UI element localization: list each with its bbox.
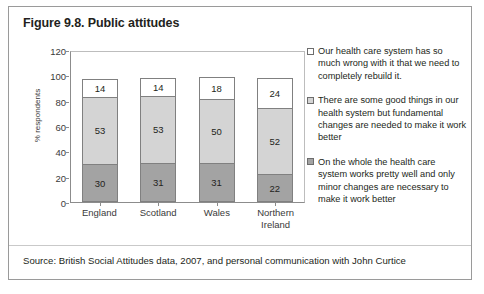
- legend-item[interactable]: Our health care system has so much wrong…: [307, 45, 467, 82]
- x-axis-label-wales: Wales: [188, 207, 247, 219]
- y-axis-tick-mark: [66, 152, 69, 153]
- bar-segment-top[interactable]: 18: [199, 77, 235, 100]
- bar-segment-bottom[interactable]: 22: [257, 174, 293, 202]
- bar-segment-bottom[interactable]: 31: [140, 163, 176, 202]
- legend-item[interactable]: On the whole the health care system work…: [307, 156, 467, 206]
- bar-segment-top[interactable]: 14: [140, 78, 176, 96]
- bar-stack[interactable]: 245222: [257, 78, 293, 202]
- source-divider: [9, 245, 471, 246]
- y-axis-tick-80: 80: [55, 96, 66, 107]
- legend-swatch-icon: [307, 48, 314, 55]
- bar-stack[interactable]: 145330: [82, 79, 118, 202]
- figure-frame: Figure 9.8. Public attitudes % responden…: [8, 6, 472, 280]
- x-axis-tick-mark: [275, 202, 276, 206]
- bar-value-label: 31: [153, 177, 164, 188]
- x-axis-label-line: Northern: [246, 207, 305, 219]
- bar-slot: 245222: [246, 52, 304, 202]
- chart-legend: Our health care system has so much wrong…: [307, 45, 467, 217]
- figure-title: Figure 9.8. Public attitudes: [23, 16, 179, 30]
- bar-value-label: 30: [95, 178, 106, 189]
- legend-item[interactable]: There are some good things in our health…: [307, 94, 467, 144]
- y-axis-tick-mark: [66, 76, 69, 77]
- x-axis-label-northern-ireland: NorthernIreland: [246, 207, 305, 230]
- x-axis-tick-labels: EnglandScotlandWalesNorthernIreland: [70, 207, 305, 241]
- bar-value-label: 22: [270, 183, 281, 194]
- bar-segment-top[interactable]: 24: [257, 78, 293, 108]
- legend-label: There are some good things in our health…: [318, 94, 467, 144]
- x-axis-tick-mark: [100, 202, 101, 206]
- y-axis-tick-mark: [66, 127, 69, 128]
- source-note: Source: British Social Attitudes data, 2…: [23, 255, 459, 266]
- y-axis-tick-labels: 120100806040200: [37, 51, 69, 203]
- x-axis-tick-mark: [158, 202, 159, 206]
- bar-slot: 185031: [188, 52, 246, 202]
- legend-swatch-icon: [307, 97, 314, 104]
- bar-segment-middle[interactable]: 52: [257, 108, 293, 174]
- y-axis-tick-mark: [66, 102, 69, 103]
- y-axis-tick-100: 100: [50, 71, 66, 82]
- bar-slot: 145331: [129, 52, 187, 202]
- x-axis-label-line: Ireland: [246, 219, 305, 231]
- y-axis-tick-mark: [66, 203, 69, 204]
- x-axis-label-line: England: [70, 207, 129, 219]
- legend-label: On the whole the health care system work…: [318, 156, 467, 206]
- bar-value-label: 53: [95, 125, 106, 136]
- y-axis-tick-40: 40: [55, 147, 66, 158]
- y-axis-tick-20: 20: [55, 172, 66, 183]
- legend-swatch-icon: [307, 158, 314, 165]
- bar-value-label: 53: [153, 124, 164, 135]
- bar-value-label: 18: [211, 83, 222, 94]
- x-axis-label-line: Scotland: [129, 207, 188, 219]
- bar-value-label: 31: [211, 177, 222, 188]
- x-axis-label-line: Wales: [188, 207, 247, 219]
- x-axis-tick-mark: [217, 202, 218, 206]
- x-axis-label-scotland: Scotland: [129, 207, 188, 219]
- bar-segment-bottom[interactable]: 31: [199, 163, 235, 202]
- bar-value-label: 52: [270, 136, 281, 147]
- bar-segment-middle[interactable]: 50: [199, 99, 235, 162]
- plot-area: 145330145331185031245222: [70, 51, 305, 203]
- y-axis-tick-60: 60: [55, 122, 66, 133]
- bar-value-label: 24: [270, 88, 281, 99]
- bar-value-label: 14: [153, 82, 164, 93]
- bar-value-label: 14: [95, 83, 106, 94]
- x-axis-label-england: England: [70, 207, 129, 219]
- y-axis-tick-120: 120: [50, 46, 66, 57]
- bar-stack[interactable]: 145331: [140, 78, 176, 202]
- legend-label: Our health care system has so much wrong…: [318, 45, 467, 82]
- bar-value-label: 50: [211, 126, 222, 137]
- bar-segment-top[interactable]: 14: [82, 79, 118, 97]
- y-axis-tick-mark: [66, 178, 69, 179]
- bar-segment-middle[interactable]: 53: [82, 97, 118, 164]
- bar-slot: 145330: [71, 52, 129, 202]
- bar-segment-middle[interactable]: 53: [140, 96, 176, 163]
- bar-stack[interactable]: 185031: [199, 77, 235, 202]
- y-axis-tick-mark: [66, 51, 69, 52]
- bar-segment-bottom[interactable]: 30: [82, 164, 118, 202]
